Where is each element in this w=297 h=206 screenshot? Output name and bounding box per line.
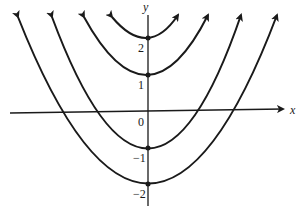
y-tick-neg-2: −2 — [133, 188, 146, 200]
vertex-dot — [146, 36, 151, 41]
y-tick-2: 2 — [138, 42, 144, 54]
x-axis-label: x — [290, 104, 295, 116]
curve-vertex-1.5 — [84, 15, 208, 75]
vertex-dot — [146, 146, 151, 151]
y-axis-label: y — [143, 1, 148, 13]
vertex-dot — [146, 73, 151, 78]
x-axis — [10, 109, 283, 113]
vertex-dot — [146, 182, 151, 187]
curve-vertex-2.5 — [112, 15, 178, 38]
curve-vertex-neg-1 — [52, 15, 241, 149]
y-tick-neg-1: −1 — [133, 152, 146, 164]
origin-label: 0 — [138, 116, 144, 128]
plot-canvas — [0, 0, 297, 206]
parabola-family-figure: y x 0 2 1 −1 −2 — [0, 0, 297, 206]
y-tick-1: 1 — [138, 79, 144, 91]
